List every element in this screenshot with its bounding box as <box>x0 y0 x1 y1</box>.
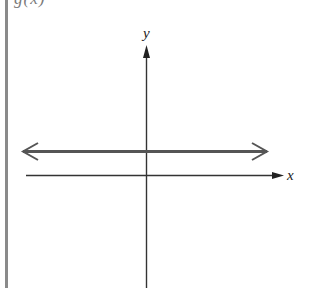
x-axis-arrow-icon <box>272 172 284 179</box>
horizontal-line-graph <box>23 143 267 160</box>
y-axis <box>143 45 150 288</box>
y-axis-arrow-icon <box>143 45 150 58</box>
coordinate-plane: y x <box>0 0 309 288</box>
y-axis-label: y <box>141 25 150 41</box>
x-axis <box>26 172 284 179</box>
x-axis-label: x <box>286 167 294 183</box>
